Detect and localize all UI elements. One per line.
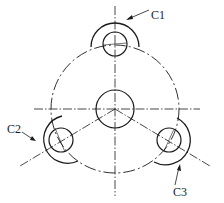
arc-c3 xyxy=(154,118,190,165)
drawing-svg xyxy=(0,0,224,203)
label-c2: C2 xyxy=(7,123,21,135)
label-c3: C3 xyxy=(173,186,187,198)
flange-drawing: C1 C2 C3 xyxy=(0,0,224,203)
centerlines xyxy=(20,6,210,196)
label-c1: C1 xyxy=(151,9,165,21)
hole-c2 xyxy=(49,128,73,152)
